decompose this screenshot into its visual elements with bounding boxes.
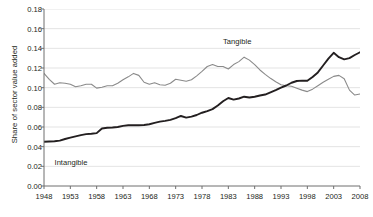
x-tick-label: 1948: [36, 192, 53, 201]
x-tick-label: 1963: [115, 192, 132, 201]
x-tick-label: 1993: [273, 192, 290, 201]
y-tick-label: 0.16: [12, 24, 42, 33]
chart-svg: [44, 9, 360, 186]
gridlines: [44, 9, 360, 166]
x-tick-label: 1973: [167, 192, 184, 201]
chart-container: Share of sector value added 0.180.160.14…: [0, 0, 373, 217]
x-tick-label: 1988: [246, 192, 263, 201]
x-tick-label: 2003: [325, 192, 342, 201]
x-tick-label: 1953: [62, 192, 79, 201]
y-tick-label: 0.06: [12, 123, 42, 132]
y-tick-label: 0.02: [12, 162, 42, 171]
y-tick-label: 0.10: [12, 83, 42, 92]
y-tick-label: 0.12: [12, 64, 42, 73]
y-axis-tick-labels: 0.180.160.140.120.100.080.060.040.020.00: [10, 0, 42, 217]
y-tick-label: 0.18: [12, 5, 42, 14]
plot-area: [44, 9, 360, 186]
y-tick-label: 0.04: [12, 142, 42, 151]
series-label-intangible: Intangible: [55, 158, 88, 167]
y-tick-label: 0.08: [12, 103, 42, 112]
series-lines: [44, 52, 360, 141]
x-tick-label: 2008: [352, 192, 369, 201]
series-line-intangible: [44, 52, 360, 141]
y-tick-label: 0.14: [12, 44, 42, 53]
y-tick-label: 0.00: [12, 182, 42, 191]
x-tick-label: 1998: [299, 192, 316, 201]
x-tick-label: 1958: [88, 192, 105, 201]
x-tick-label: 1968: [141, 192, 158, 201]
x-tick-label: 1983: [220, 192, 237, 201]
x-tick-label: 1978: [194, 192, 211, 201]
series-label-tangible: Tangible: [223, 37, 251, 46]
